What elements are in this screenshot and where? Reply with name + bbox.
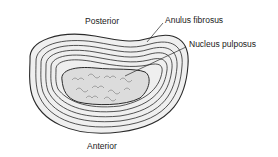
- label-posterior: Posterior: [85, 17, 119, 26]
- disc-diagram: [0, 0, 278, 157]
- nucleus-pulposus: [62, 68, 149, 105]
- label-anterior: Anterior: [87, 142, 117, 151]
- label-anulus-fibrosus: Anulus fibrosus: [165, 16, 223, 25]
- label-nucleus-pulposus: Nucleus pulposus: [189, 40, 256, 49]
